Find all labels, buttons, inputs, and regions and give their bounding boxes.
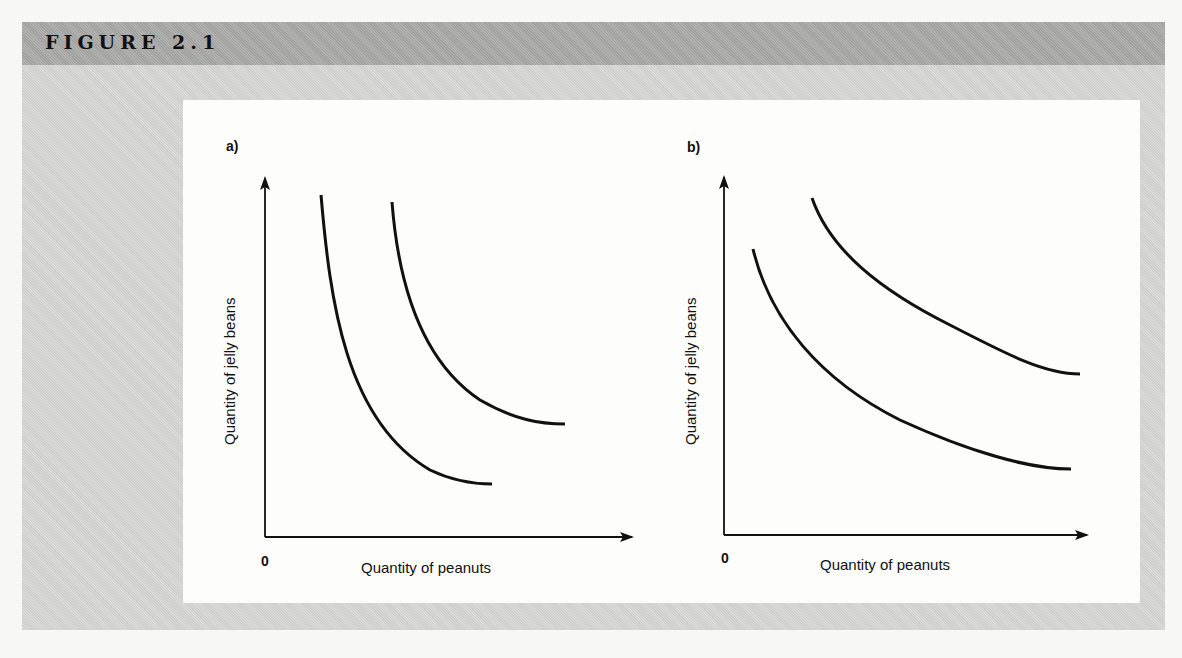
x-axis-label-b: Quantity of peanuts	[820, 556, 950, 573]
x-axis-label-a: Quantity of peanuts	[361, 559, 491, 576]
y-axis-label-a: Quantity of jelly beans	[221, 297, 238, 445]
origin-label-b: 0	[721, 550, 729, 566]
chart-a: a) 0 Quantity of peanuts Quantity of jel…	[221, 138, 632, 576]
panel-b-label: b)	[687, 139, 700, 155]
origin-label-a: 0	[261, 553, 269, 569]
indifference-curve-b-2	[812, 198, 1080, 374]
y-axis-label-b: Quantity of jelly beans	[682, 297, 699, 445]
charts-canvas: a) 0 Quantity of peanuts Quantity of jel…	[0, 0, 1182, 658]
page: FIGURE 2.1 a) 0 Quantity of peanuts Quan…	[0, 0, 1182, 658]
chart-b: b) 0 Quantity of peanuts Quantity of jel…	[682, 139, 1087, 573]
indifference-curve-a-1	[321, 195, 492, 484]
indifference-curve-b-1	[753, 249, 1071, 469]
indifference-curve-a-2	[392, 202, 565, 424]
panel-a-label: a)	[226, 138, 238, 154]
